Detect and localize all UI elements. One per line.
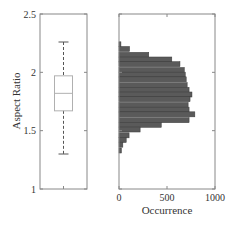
histogram-bar (119, 118, 189, 123)
x-tick-label: 500 (160, 192, 175, 203)
box-element (55, 42, 73, 154)
histogram-bar (119, 83, 187, 88)
y-tick-label: 2.5 (24, 9, 37, 20)
x-tick-label: 0 (117, 192, 122, 203)
histogram-bar (119, 137, 126, 142)
histogram-bar (119, 102, 188, 107)
histogram-bar (119, 112, 195, 117)
histogram-bar (119, 127, 140, 132)
histogram-bar (119, 92, 192, 97)
y-axis-label: Aspect Ratio (10, 72, 22, 130)
figure: 11.522.5 Aspect Ratio 05001000 Occurrenc… (0, 0, 233, 226)
histogram-bar (119, 142, 123, 147)
histogram-bar (119, 62, 180, 67)
boxplot-frame (40, 14, 87, 189)
boxplot-y-ticks: 11.522.5 (24, 9, 88, 195)
histogram-bar (119, 97, 190, 102)
y-tick-label: 2 (31, 67, 36, 78)
histogram-bar (119, 57, 172, 62)
histogram-bar (119, 46, 130, 51)
histogram-bar (119, 133, 129, 138)
histogram-bar (119, 87, 189, 92)
y-tick-label: 1.5 (24, 125, 37, 136)
x-tick-label: 1000 (205, 192, 225, 203)
histogram-bar (119, 122, 161, 127)
histogram-bar (119, 67, 184, 72)
histogram-bar (119, 77, 186, 82)
histogram-panel: 05001000 Occurrence (117, 14, 226, 216)
x-axis-label: Occurrence (142, 204, 193, 216)
histogram-bar (119, 52, 149, 57)
boxplot-panel: 11.522.5 Aspect Ratio (10, 9, 87, 195)
histogram-bar (119, 107, 189, 112)
y-tick-label: 1 (31, 184, 36, 195)
histogram-bar (119, 72, 185, 77)
histogram-bars (119, 42, 195, 153)
